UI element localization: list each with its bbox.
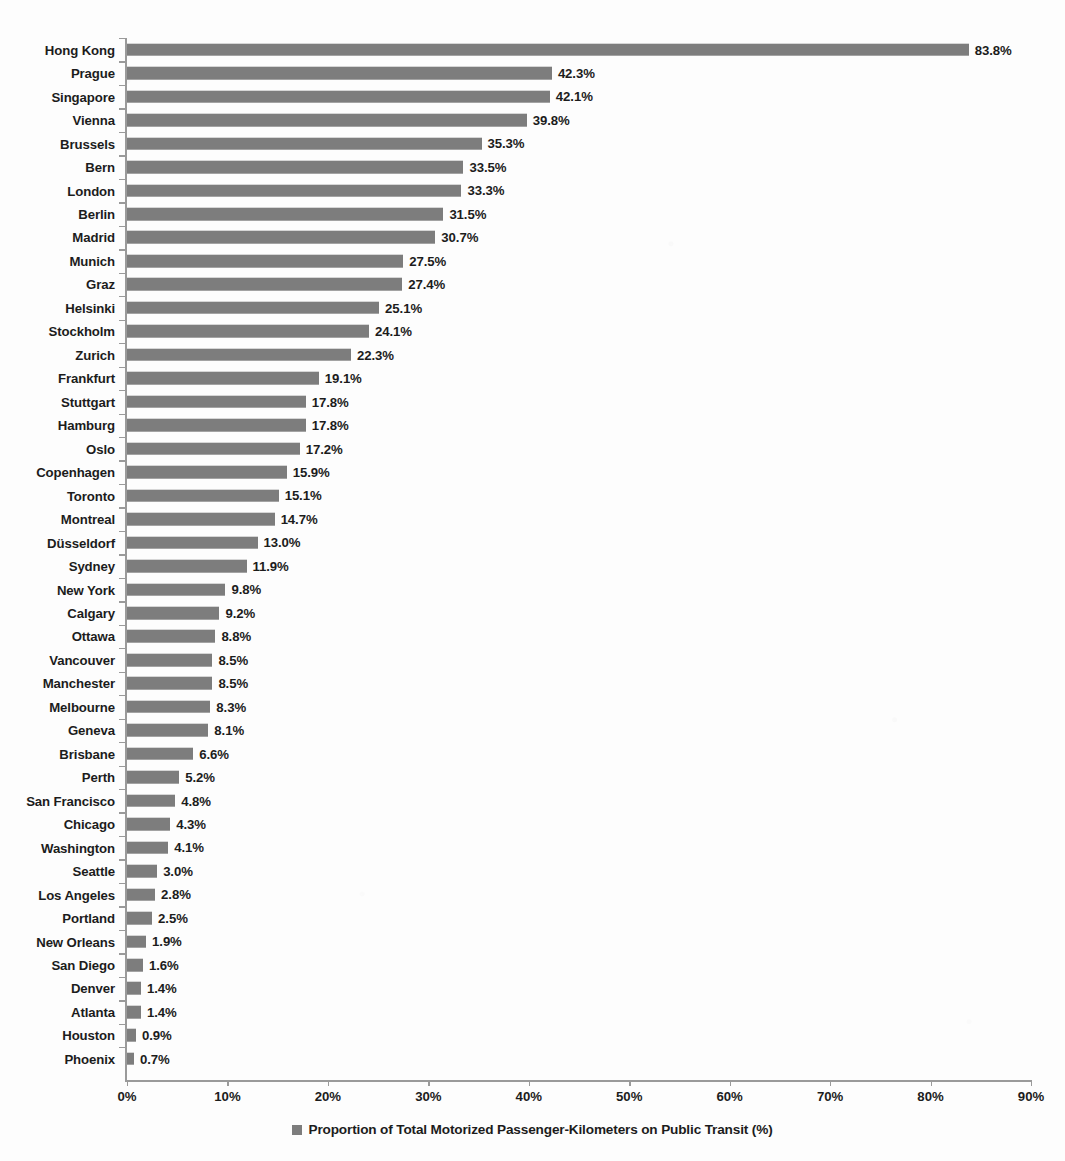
bar[interactable] (127, 536, 258, 549)
bar[interactable] (127, 208, 443, 221)
bar[interactable] (127, 630, 215, 643)
bar[interactable] (127, 935, 146, 948)
bar-row[interactable]: Phoenix0.7% (0, 1047, 1065, 1070)
bar[interactable] (127, 137, 482, 150)
bar[interactable] (127, 748, 193, 761)
bar[interactable] (127, 161, 463, 174)
bar-row[interactable]: Vancouver8.5% (0, 648, 1065, 671)
bar[interactable] (127, 841, 168, 854)
bar[interactable] (127, 489, 279, 502)
bar[interactable] (127, 677, 212, 690)
bar-row[interactable]: Munich27.5% (0, 249, 1065, 272)
bar-row[interactable]: Toronto15.1% (0, 484, 1065, 507)
bar-row[interactable]: Bern33.5% (0, 155, 1065, 178)
bar[interactable] (127, 560, 247, 573)
bar[interactable] (127, 442, 300, 455)
bar[interactable] (127, 1029, 136, 1042)
y-axis-tick-mark (119, 320, 125, 321)
bar-row[interactable]: Frankfurt19.1% (0, 367, 1065, 390)
bar-row[interactable]: Vienna39.8% (0, 108, 1065, 131)
bar[interactable] (127, 865, 157, 878)
bar[interactable] (127, 184, 461, 197)
bar-row[interactable]: Prague42.3% (0, 61, 1065, 84)
bar-row[interactable]: Stuttgart17.8% (0, 390, 1065, 413)
bar[interactable] (127, 349, 351, 362)
bar-row[interactable]: Hong Kong83.8% (0, 38, 1065, 61)
bar-row[interactable]: Oslo17.2% (0, 437, 1065, 460)
bar[interactable] (127, 302, 379, 315)
bar-with-value: 30.7% (127, 231, 478, 244)
bar-row[interactable]: Sydney11.9% (0, 554, 1065, 577)
bar[interactable] (127, 231, 435, 244)
bar[interactable] (127, 701, 210, 714)
bar-row[interactable]: Geneva8.1% (0, 719, 1065, 742)
bar[interactable] (127, 325, 369, 338)
bar-row[interactable]: Denver1.4% (0, 977, 1065, 1000)
bar-row[interactable]: Calgary9.2% (0, 601, 1065, 624)
bar[interactable] (127, 43, 969, 56)
y-axis-tick-mark (119, 484, 125, 485)
bar-row[interactable]: Washington4.1% (0, 836, 1065, 859)
bar[interactable] (127, 255, 403, 268)
bar-value-label: 0.7% (140, 1051, 170, 1066)
bar-row[interactable]: Stockholm24.1% (0, 320, 1065, 343)
bar-row[interactable]: Atlanta1.4% (0, 1000, 1065, 1023)
bar-row[interactable]: Graz27.4% (0, 273, 1065, 296)
bar-row[interactable]: Perth5.2% (0, 766, 1065, 789)
bar[interactable] (127, 888, 155, 901)
bar[interactable] (127, 67, 552, 80)
y-axis-tick-mark (119, 648, 125, 649)
bar-row[interactable]: Montreal14.7% (0, 507, 1065, 530)
bar-row[interactable]: Düsseldorf13.0% (0, 531, 1065, 554)
bar-row[interactable]: San Diego1.6% (0, 953, 1065, 976)
bar[interactable] (127, 1006, 141, 1019)
bar[interactable] (127, 419, 306, 432)
category-label: Toronto (67, 488, 115, 503)
bar-row[interactable]: Los Angeles2.8% (0, 883, 1065, 906)
bar-row[interactable]: Portland2.5% (0, 906, 1065, 929)
bar[interactable] (127, 583, 225, 596)
bar-row[interactable]: Berlin31.5% (0, 202, 1065, 225)
bar[interactable] (127, 1053, 134, 1066)
bar-row[interactable]: London33.3% (0, 179, 1065, 202)
bar[interactable] (127, 818, 170, 831)
bar-row[interactable]: Ottawa8.8% (0, 625, 1065, 648)
bar-row[interactable]: New Orleans1.9% (0, 930, 1065, 953)
bar-row[interactable]: Manchester8.5% (0, 672, 1065, 695)
bar-value-label: 33.5% (469, 160, 506, 175)
bar-row[interactable]: Chicago4.3% (0, 812, 1065, 835)
bar[interactable] (127, 395, 306, 408)
bar-row[interactable]: Copenhagen15.9% (0, 460, 1065, 483)
bar-row[interactable]: Brussels35.3% (0, 132, 1065, 155)
bar-row[interactable]: Hamburg17.8% (0, 414, 1065, 437)
x-axis-tick-mark (730, 1080, 731, 1086)
bar-row[interactable]: New York9.8% (0, 578, 1065, 601)
bar-row[interactable]: San Francisco4.8% (0, 789, 1065, 812)
bar-value-label: 42.3% (558, 66, 595, 81)
bar[interactable] (127, 794, 175, 807)
bar-row[interactable]: Houston0.9% (0, 1024, 1065, 1047)
bar-row[interactable]: Singapore42.1% (0, 85, 1065, 108)
bar[interactable] (127, 654, 212, 667)
bar[interactable] (127, 771, 179, 784)
category-label: London (67, 183, 115, 198)
bar[interactable] (127, 513, 275, 526)
bar[interactable] (127, 959, 143, 972)
bar[interactable] (127, 912, 152, 925)
bar-row[interactable]: Melbourne8.3% (0, 695, 1065, 718)
bar[interactable] (127, 724, 208, 737)
bar-row[interactable]: Seattle3.0% (0, 859, 1065, 882)
bar[interactable] (127, 607, 219, 620)
bar[interactable] (127, 278, 402, 291)
category-label: Atlanta (71, 1004, 115, 1019)
bar-row[interactable]: Madrid30.7% (0, 226, 1065, 249)
bar[interactable] (127, 90, 550, 103)
bar-row[interactable]: Zurich22.3% (0, 343, 1065, 366)
bar-row[interactable]: Brisbane6.6% (0, 742, 1065, 765)
bar-row[interactable]: Helsinki25.1% (0, 296, 1065, 319)
bar[interactable] (127, 982, 141, 995)
bar[interactable] (127, 372, 319, 385)
bar[interactable] (127, 466, 287, 479)
bar-with-value: 14.7% (127, 513, 318, 526)
bar[interactable] (127, 114, 527, 127)
